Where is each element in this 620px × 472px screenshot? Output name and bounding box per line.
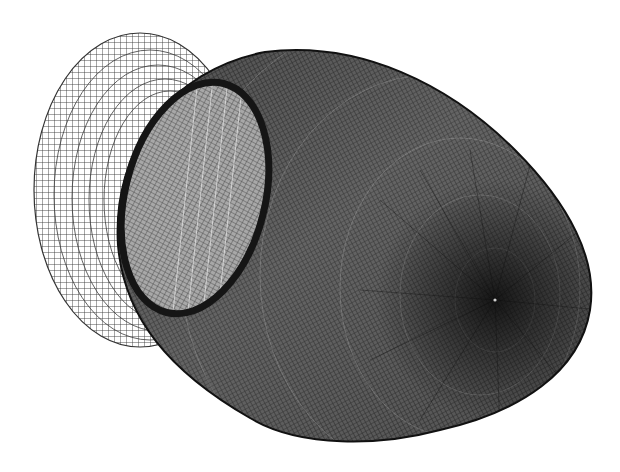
mesh-figure: 3D wireframe mesh of a bulb-shaped shell…	[0, 0, 620, 472]
pole-point	[493, 298, 496, 301]
wireframe-canvas	[0, 0, 620, 472]
